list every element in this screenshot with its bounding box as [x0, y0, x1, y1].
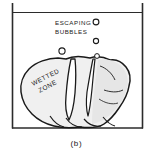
escaping-bubbles-label-line2: BUBBLES [55, 28, 87, 35]
figure-caption: (b) [70, 139, 82, 148]
bubble [93, 38, 98, 43]
figure-container: ESCAPING BUBBLES WETTED ZONE (b) [0, 0, 153, 154]
escaping-bubbles-label-line1: ESCAPING [55, 19, 91, 26]
wetted-zone-diagram: ESCAPING BUBBLES WETTED ZONE (b) [0, 0, 153, 154]
bubble [95, 54, 100, 59]
bubble [93, 19, 99, 25]
bubble [59, 48, 65, 54]
